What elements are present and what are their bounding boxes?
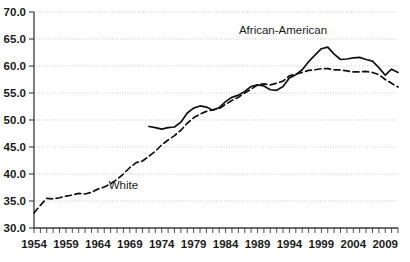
y-tick-label: 30.0 bbox=[4, 222, 26, 234]
x-tick-label: 1959 bbox=[53, 238, 79, 250]
y-tick-label: 60.0 bbox=[4, 60, 26, 72]
x-tick-label: 1994 bbox=[277, 238, 303, 250]
x-tick-label: 1984 bbox=[213, 238, 239, 250]
annotation-white: White bbox=[109, 179, 138, 191]
x-tick-label: 2004 bbox=[341, 238, 367, 250]
x-tick-label: 1964 bbox=[85, 238, 111, 250]
y-tick-label: 55.0 bbox=[4, 87, 26, 99]
y-tick-label: 65.0 bbox=[4, 33, 26, 45]
x-axis-tick-labels: 1954195919641969197419791984198919941999… bbox=[21, 238, 398, 250]
annotation-african-american: African-American bbox=[239, 24, 327, 36]
x-tick-label: 1989 bbox=[245, 238, 271, 250]
y-tick-label: 70.0 bbox=[4, 6, 26, 18]
gridlines bbox=[34, 12, 398, 201]
x-tick-label: 2009 bbox=[372, 238, 398, 250]
x-axis-ticks bbox=[34, 228, 398, 233]
y-axis-tick-labels: 30.035.040.045.050.055.060.065.070.0 bbox=[4, 6, 26, 234]
line-chart: 30.035.040.045.050.055.060.065.070.0 195… bbox=[0, 0, 410, 262]
y-tick-label: 50.0 bbox=[4, 114, 26, 126]
chart-canvas: 30.035.040.045.050.055.060.065.070.0 195… bbox=[0, 0, 410, 262]
y-axis-ticks bbox=[29, 12, 34, 228]
y-tick-label: 35.0 bbox=[4, 195, 26, 207]
series-line-african-american bbox=[149, 47, 398, 129]
x-tick-label: 1999 bbox=[309, 238, 335, 250]
x-tick-label: 1969 bbox=[117, 238, 143, 250]
x-tick-label: 1974 bbox=[149, 238, 175, 250]
y-tick-label: 40.0 bbox=[4, 168, 26, 180]
series-lines bbox=[34, 47, 398, 213]
y-tick-label: 45.0 bbox=[4, 141, 26, 153]
x-tick-label: 1954 bbox=[21, 238, 47, 250]
x-tick-label: 1979 bbox=[181, 238, 207, 250]
series-line-white bbox=[34, 69, 398, 213]
